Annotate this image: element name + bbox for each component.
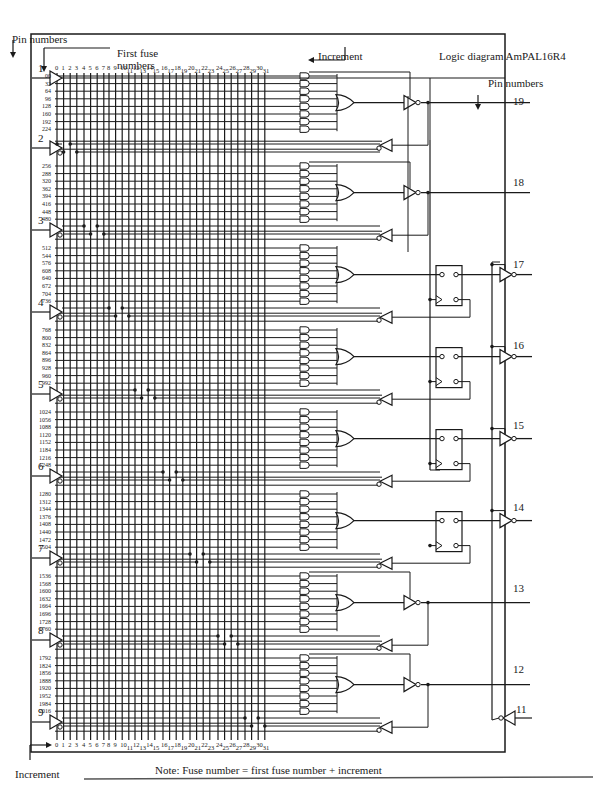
and-gate: [300, 454, 309, 460]
fuse-connection-dot: [55, 142, 59, 146]
fuse-connection-dot: [75, 150, 79, 154]
and-gate: [300, 409, 309, 415]
oe-wire: [492, 718, 499, 720]
fuse-connection-dot: [236, 642, 240, 646]
or-gate: [336, 95, 354, 111]
column-increment-top: 18: [174, 64, 181, 71]
column-increment-bottom: 13: [140, 744, 147, 751]
feedback-bubble: [377, 728, 381, 732]
first-fuse-number: 1120: [25, 432, 51, 438]
column-increment-bottom: 19: [181, 744, 188, 751]
output-bubble: [512, 354, 516, 358]
column-increment-top: 8: [107, 64, 110, 71]
column-increment-top: 17: [168, 67, 175, 74]
column-increment-bottom: 31: [263, 744, 270, 751]
arrow-head: [10, 52, 16, 58]
first-fuse-number: 672: [25, 283, 51, 289]
arrow-head: [475, 104, 481, 110]
fuse-connection-dot: [174, 470, 178, 474]
and-gate: [300, 491, 309, 497]
and-gate: [300, 80, 309, 86]
and-gate: [300, 275, 309, 281]
input-buffer: [50, 71, 62, 85]
column-increment-bottom: 25: [223, 744, 230, 751]
and-gate: [300, 439, 309, 445]
fuse-connection-dot: [223, 642, 227, 646]
fuse-connection-dot: [62, 150, 66, 154]
input-pin-number: 4: [38, 296, 44, 308]
first-fuse-number: 1280: [25, 491, 51, 497]
and-gate: [300, 462, 309, 468]
column-increment-bottom: 14: [146, 741, 153, 748]
and-gate: [300, 618, 309, 624]
feedback-bubble: [377, 564, 381, 568]
and-gate: [300, 163, 309, 169]
and-gate: [300, 700, 309, 706]
flip-flop-d-input: [440, 354, 444, 358]
column-increment-top: 26: [229, 64, 236, 71]
column-increment-top: 16: [161, 64, 168, 71]
flip-flop-qbar-output: [454, 379, 458, 383]
first-fuse-number: 1632: [25, 596, 51, 602]
fuse-connection-dot: [243, 716, 247, 720]
pin-11-bubble: [499, 716, 503, 720]
input-pin-number: 5: [38, 378, 44, 390]
output-pin-number: 18: [513, 176, 524, 188]
or-gate: [336, 513, 354, 529]
and-gate: [300, 216, 309, 222]
first-fuse-number: 1888: [25, 678, 51, 684]
registered-output-buffer: [500, 268, 512, 282]
and-gate: [300, 298, 309, 304]
fuse-connection-dot: [195, 560, 199, 564]
fuse-connection-dot: [250, 724, 254, 728]
column-increment-bottom: 15: [153, 744, 160, 751]
column-increment-top: 1: [62, 64, 65, 71]
and-gate: [300, 544, 309, 550]
and-gate: [300, 678, 309, 684]
and-gate: [300, 260, 309, 266]
first-fuse-number: 64: [25, 88, 51, 94]
and-gate: [300, 506, 309, 512]
first-fuse-number: 1952: [25, 693, 51, 699]
column-increment-top: 0: [55, 64, 58, 71]
first-fuse-number: 576: [25, 260, 51, 266]
fuse-connection-dot: [263, 724, 267, 728]
and-gate: [300, 88, 309, 94]
column-increment-top: 22: [201, 64, 208, 71]
and-gate: [300, 178, 309, 184]
column-increment-top: 4: [82, 64, 85, 71]
first-fuse-number: 1824: [25, 663, 51, 669]
and-gate: [300, 596, 309, 602]
and-gate: [300, 573, 309, 579]
input-complement-bubble: [58, 397, 62, 401]
output-bubble: [512, 272, 516, 276]
fuse-connection-dot: [95, 224, 99, 228]
input-pin-number: 8: [38, 624, 44, 636]
and-gate: [300, 685, 309, 691]
column-increment-top: 28: [243, 64, 250, 71]
first-fuse-number: 288: [25, 171, 51, 177]
arrow-head: [46, 742, 52, 748]
or-gate: [336, 185, 354, 201]
column-increment-top: 21: [195, 67, 202, 74]
first-fuse-number: 1376: [25, 514, 51, 520]
output-bubble: [416, 190, 420, 194]
flip-flop-q-output: [454, 272, 458, 276]
pin-numbers-label: Pin numbers: [12, 33, 67, 45]
input-complement-bubble: [58, 725, 62, 729]
pin-numbers-right-label: Pin numbers: [488, 77, 543, 89]
fuse-connection-dot: [216, 634, 220, 638]
first-fuse-number: 544: [25, 253, 51, 259]
first-fuse-number: 896: [25, 357, 51, 363]
fuse-connection-dot: [153, 396, 157, 400]
and-gate: [300, 252, 309, 258]
fuse-connection-dot: [114, 314, 118, 318]
and-gate: [300, 626, 309, 632]
column-increment-top: 24: [216, 64, 223, 71]
fuse-connection-dot: [127, 314, 131, 318]
first-fuse-number: 832: [25, 342, 51, 348]
fuse-connection-dot: [168, 478, 172, 482]
or-gate: [336, 431, 354, 447]
column-increment-top: 31: [263, 67, 270, 74]
feedback-bubble: [377, 400, 381, 404]
